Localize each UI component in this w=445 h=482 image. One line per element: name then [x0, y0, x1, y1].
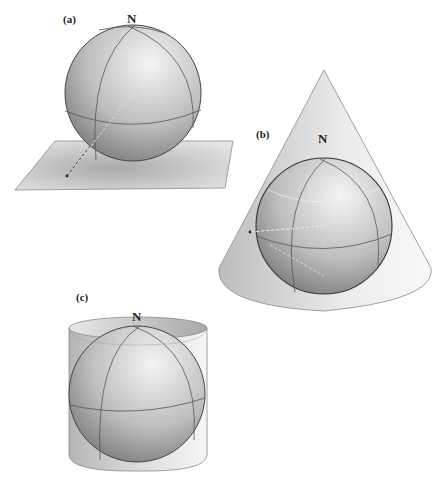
north-pole-label-c: N: [132, 309, 142, 324]
panel-a: (a) N: [15, 11, 233, 190]
projected-point: [66, 175, 69, 178]
globe-c: [69, 326, 205, 462]
north-pole-label-a: N: [127, 11, 137, 26]
panel-b: (b) N: [219, 70, 431, 311]
projected-point-b: [249, 231, 252, 234]
panel-c: (c) N: [69, 291, 207, 471]
panel-label-b: (b): [256, 128, 270, 141]
map-projections-diagram: (a) N (b) N (c) N: [0, 0, 445, 482]
panel-label-c: (c): [76, 291, 89, 304]
panel-label-a: (a): [63, 13, 76, 26]
north-pole-label-b: N: [318, 131, 328, 146]
